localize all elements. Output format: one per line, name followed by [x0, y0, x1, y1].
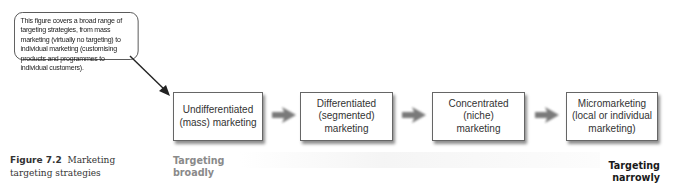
figure-caption: Figure 7.2 Marketing targeting strategie…: [10, 154, 160, 179]
box-line: (segmented): [317, 110, 376, 123]
targeting-gradient-band: [240, 152, 600, 168]
box-line: (niche): [448, 110, 508, 123]
box-line: marketing): [572, 123, 652, 136]
targeting-narrowly-label: Targeting narrowly: [609, 160, 660, 183]
callout-pointer-arrow-icon: [0, 0, 200, 110]
flow-arrow-icon: [533, 104, 561, 126]
box-line: Concentrated: [448, 98, 508, 111]
strategy-box-differentiated: Differentiated (segmented) marketing: [300, 92, 393, 141]
flow-arrow-icon: [270, 104, 298, 126]
figure-number: Figure 7.2: [10, 155, 62, 165]
strategy-box-micromarketing: Micromarketing (local or individual mark…: [566, 92, 658, 141]
label-line: Targeting: [609, 160, 660, 172]
box-line: Micromarketing: [572, 98, 652, 111]
label-line: broadly: [173, 167, 224, 179]
strategy-box-concentrated: Concentrated (niche) marketing: [432, 92, 525, 141]
targeting-broadly-label: Targeting broadly: [173, 155, 224, 178]
box-line: (local or individual: [572, 110, 652, 123]
box-line: (mass) marketing: [179, 117, 256, 130]
strategy-box-undifferentiated: Undifferentiated (mass) marketing: [173, 92, 263, 141]
box-line: marketing: [448, 123, 508, 136]
box-line: marketing: [317, 123, 376, 136]
label-line: narrowly: [609, 172, 660, 184]
box-line: Undifferentiated: [179, 104, 256, 117]
box-line: Differentiated: [317, 98, 376, 111]
label-line: Targeting: [173, 155, 224, 167]
flow-arrow-icon: [400, 104, 428, 126]
